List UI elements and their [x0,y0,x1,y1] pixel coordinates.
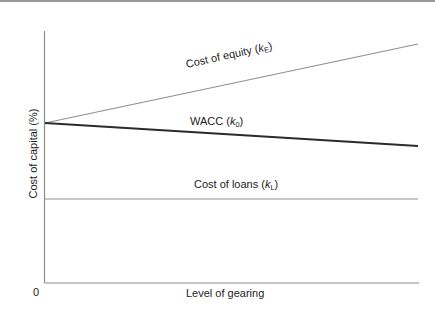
series-label-cost-of-loans: Cost of loans (kL) [194,179,278,190]
figure-container: Cost of equity (kE) WACC (k0) Cost of lo… [0,0,435,309]
origin-label: 0 [33,287,39,298]
chart-plot-area [0,0,435,309]
series-label-loans-subscript: L [270,183,274,192]
series-label-wacc-subscript: 0 [235,120,239,129]
series-label-loans-close: ) [275,178,279,190]
series-label-wacc: WACC (k0) [190,116,243,127]
series-label-equity-subscript: E [263,45,270,55]
series-label-loans-text: Cost of loans ( [194,178,265,190]
series-label-wacc-close: ) [240,115,244,127]
series-label-wacc-text: WACC ( [190,115,230,127]
x-axis-title: Level of gearing [186,288,264,299]
y-axis-title: Cost of capital (%) [28,94,39,214]
